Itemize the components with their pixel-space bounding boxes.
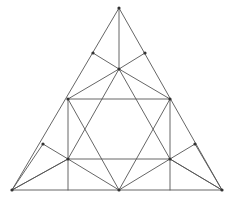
vertex-apex (117, 6, 120, 9)
vertex-edge-lower-right (193, 142, 196, 145)
triangle-diagram (0, 0, 238, 204)
edges-group (12, 8, 222, 190)
segment-rect-bot-left-to-bl-corner-long (12, 159, 68, 190)
vertex-hub-bottom (117, 188, 120, 191)
segment-midbottom-to-rect-top-left (68, 99, 119, 190)
vertex-rect-top-left (66, 97, 69, 100)
segment-hub-to-upper-left-edge (93, 53, 119, 69)
vertex-edge-upper-right (143, 51, 146, 54)
vertex-rect-bot-right (168, 157, 171, 160)
segment-midbottom-to-rect-bot-left (68, 159, 119, 190)
segment-hub-to-rect-top-left (68, 69, 119, 99)
vertex-hub-top (117, 67, 120, 70)
segment-lower-right-edge-to-rect-bot-right (170, 144, 195, 159)
segment-hub-to-upper-right-edge (119, 53, 145, 69)
segment-midbottom-to-rect-bot-right (119, 159, 170, 190)
geometric-figure-canvas (0, 0, 238, 204)
segment-bl-corner-to-lower-left-edge (12, 144, 43, 190)
segment-midbottom-to-rect-top-right (119, 99, 170, 190)
segment-lower-left-edge-to-rect-bot-left (43, 144, 68, 159)
vertex-edge-lower-left (41, 142, 44, 145)
vertex-bottom-right (220, 188, 223, 191)
vertex-bottom-left (10, 188, 13, 191)
segment-br-corner-to-lower-right-edge (195, 144, 222, 190)
vertex-edge-upper-left (91, 51, 94, 54)
segment-hub-to-rect-bot-right (119, 69, 170, 159)
segment-rect-bot-right-to-br-corner-long (170, 159, 222, 190)
vertex-rect-bot-left (66, 157, 69, 160)
vertex-rect-top-right (168, 97, 171, 100)
